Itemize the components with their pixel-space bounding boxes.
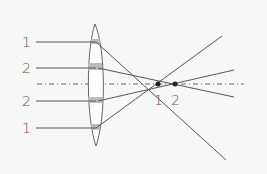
refracted-ray-2-top	[98, 68, 234, 97]
lens-zone-2-bottom	[88, 97, 102, 103]
focal-label-2: 2	[171, 93, 180, 107]
diagram-canvas: 1 2 2 1 1 2	[0, 0, 267, 174]
ray-label-2-bottom: 2	[22, 94, 31, 108]
ray-label-1-bottom: 1	[22, 121, 31, 135]
ray-label-2-top: 2	[22, 61, 31, 75]
optics-diagram	[0, 0, 267, 174]
lens-zone-2-top	[88, 63, 102, 70]
focal-point-1	[156, 82, 161, 87]
ray-label-1-top: 1	[22, 35, 31, 49]
refracted-ray-2-bottom	[98, 70, 234, 101]
focal-label-1: 1	[154, 93, 163, 107]
lens-zone-1-bottom	[91, 124, 100, 130]
focal-point-2	[173, 82, 178, 87]
